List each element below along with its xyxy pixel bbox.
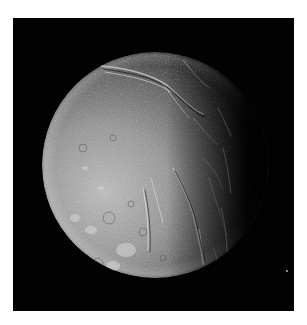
photo-frame — [13, 18, 294, 311]
star-speck — [286, 270, 288, 272]
moon-photograph — [13, 18, 294, 311]
